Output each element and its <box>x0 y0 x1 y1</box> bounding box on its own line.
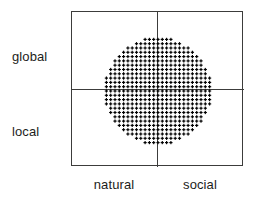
quadrant-divider-horizontal <box>72 89 244 90</box>
axis-label-social: social <box>157 178 243 191</box>
axis-label-natural: natural <box>71 178 157 191</box>
figure-canvas: global local natural social <box>0 0 257 202</box>
axis-label-local: local <box>12 125 39 138</box>
plot-frame <box>71 11 243 166</box>
axis-label-global: global <box>12 50 47 63</box>
